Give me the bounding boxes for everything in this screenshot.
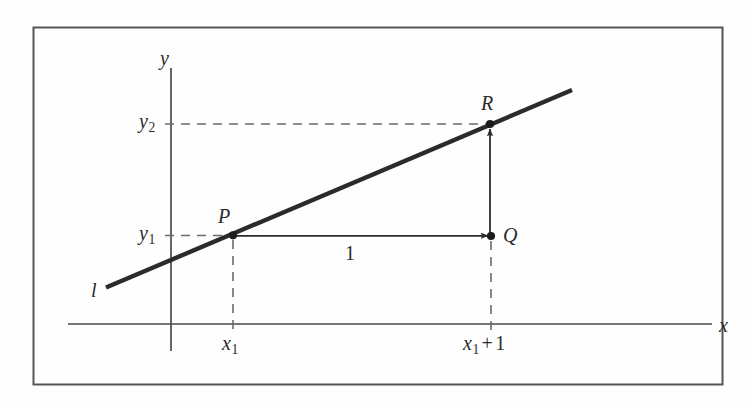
- x1-plus-1-term: 1: [495, 332, 505, 354]
- point-q-dot: [487, 232, 495, 240]
- x1-base: x: [222, 332, 231, 354]
- figure-border: [34, 28, 723, 385]
- point-r-label-text: R: [481, 92, 493, 114]
- y1-base: y: [139, 222, 148, 244]
- x1-plus-1-base: x: [463, 332, 472, 354]
- figure-container: y x y2 y1 x1 x1+1 P Q R l 1: [0, 0, 753, 409]
- x1-plus-1-tick-label: x1+1: [463, 333, 505, 357]
- x1-tick-label: x1: [222, 333, 238, 357]
- point-p-label: P: [218, 206, 230, 226]
- geometry-figure: [0, 0, 753, 409]
- y2-subscript: 2: [148, 120, 155, 135]
- y2-tick-label: y2: [139, 111, 155, 135]
- x-axis-label-text: x: [719, 314, 728, 336]
- point-q-label-text: Q: [503, 224, 517, 246]
- y-axis-label-text: y: [160, 47, 169, 69]
- y1-tick-label: y1: [139, 223, 155, 247]
- point-q-label: Q: [503, 225, 517, 245]
- x1-plus-1-operator: +: [479, 332, 495, 354]
- run-length-text: 1: [345, 242, 355, 264]
- point-r-label: R: [481, 93, 493, 113]
- y1-subscript: 1: [148, 232, 155, 247]
- y2-base: y: [139, 110, 148, 132]
- y-axis-label: y: [160, 48, 169, 68]
- x-axis-label: x: [719, 315, 728, 335]
- point-p-dot: [229, 231, 237, 239]
- line-l-label: l: [91, 280, 97, 300]
- line-l-label-text: l: [91, 279, 97, 301]
- point-p-label-text: P: [218, 205, 230, 227]
- run-length-label: 1: [345, 243, 355, 263]
- point-r-dot: [486, 120, 494, 128]
- x1-subscript: 1: [231, 342, 238, 357]
